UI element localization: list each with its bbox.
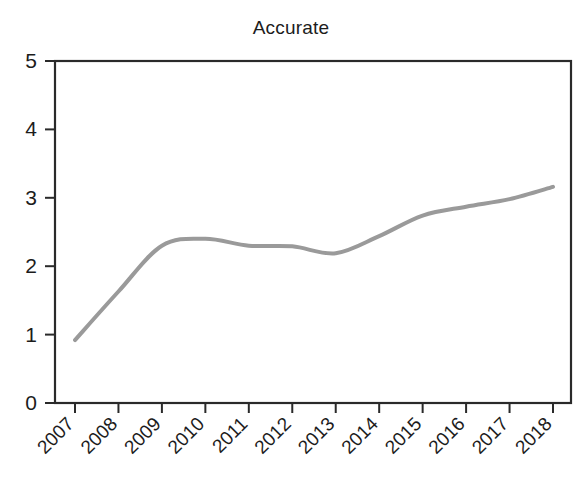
y-axis-tick-label: 4	[25, 117, 37, 140]
x-axis-tick-label: 2011	[208, 413, 252, 457]
x-axis-ticks	[75, 403, 553, 413]
x-axis-tick-label: 2017	[468, 413, 513, 458]
x-axis-tick-label: 2013	[294, 413, 339, 458]
y-axis-tick-label: 2	[25, 254, 37, 277]
y-axis-tick-labels: 012345	[25, 49, 37, 414]
plot-frame	[55, 61, 571, 403]
x-axis-tick-label: 2009	[120, 413, 165, 458]
x-axis-tick-label: 2008	[77, 413, 122, 458]
x-axis-tick-label: 2012	[250, 413, 295, 458]
x-axis-tick-label: 2015	[381, 413, 426, 458]
x-axis-tick-label: 2014	[337, 413, 382, 458]
y-axis-tick-label: 5	[25, 49, 37, 72]
x-axis-tick-label: 2010	[163, 413, 208, 458]
x-axis-tick-label: 2007	[33, 413, 78, 458]
x-axis-tick-labels: 2007200820092010201120122013201420152016…	[33, 413, 556, 458]
y-axis-tick-label: 0	[25, 391, 37, 414]
y-axis-tick-label: 3	[25, 186, 37, 209]
line-chart-plot: 012345 200720082009201020112012201320142…	[0, 0, 582, 481]
chart-container: Accurate 012345 200720082009201020112012…	[0, 0, 582, 481]
x-axis-tick-label: 2016	[424, 413, 469, 458]
data-series-line	[75, 187, 553, 340]
x-axis-tick-label: 2018	[511, 413, 556, 458]
y-axis-tick-label: 1	[25, 323, 37, 346]
y-axis-ticks	[45, 61, 55, 403]
